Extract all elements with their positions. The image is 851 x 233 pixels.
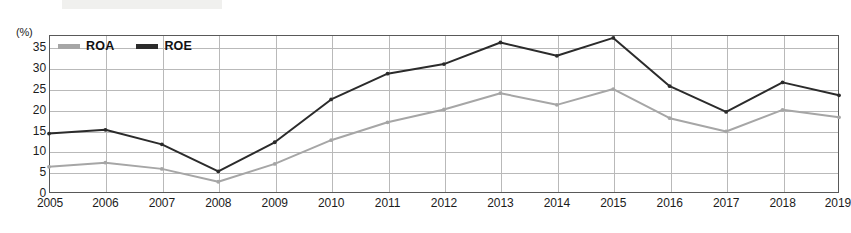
legend-label-roa: ROA (86, 39, 114, 53)
legend-item-roa: ROA (58, 39, 114, 53)
y-tick-label-5: 5 (2, 165, 46, 179)
data-point-roa-2006 (104, 161, 108, 165)
x-tick-label-2005: 2005 (37, 196, 63, 210)
data-point-roe-2017 (724, 110, 728, 114)
x-tick-label-2013: 2013 (487, 196, 513, 210)
data-point-roa-2010 (329, 138, 333, 142)
data-point-roa-2015 (611, 87, 615, 91)
x-tick-label-2007: 2007 (149, 196, 175, 210)
data-point-roe-2013 (499, 41, 503, 45)
legend-item-roe: ROE (136, 39, 192, 53)
data-point-roa-2007 (160, 167, 164, 171)
data-point-roe-2008 (216, 169, 220, 173)
x-tick-label-2014: 2014 (544, 196, 570, 210)
data-point-roe-2018 (781, 81, 785, 85)
data-point-roe-2010 (329, 98, 333, 102)
series-line-roe (49, 38, 839, 171)
data-point-roa-2014 (555, 103, 559, 107)
data-point-roe-2009 (273, 140, 277, 144)
data-point-roa-2005 (47, 165, 51, 169)
x-tick-label-2008: 2008 (205, 196, 231, 210)
x-tick-label-2016: 2016 (657, 196, 683, 210)
x-tick-label-2011: 2011 (375, 196, 400, 210)
data-point-roa-2017 (724, 130, 728, 134)
x-tick-label-2019: 2019 (825, 196, 851, 210)
series-line-roa (49, 89, 839, 182)
y-tick-label-20: 20 (2, 103, 46, 117)
data-point-roe-2015 (611, 36, 615, 40)
data-point-roa-2018 (781, 108, 785, 112)
data-point-roa-2019 (837, 115, 841, 119)
x-tick-label-2010: 2010 (318, 196, 344, 210)
y-tick-label-25: 25 (2, 82, 46, 96)
y-tick-label-15: 15 (2, 124, 46, 138)
data-point-roa-2012 (442, 108, 446, 112)
legend-swatch-roe (136, 44, 158, 49)
data-point-roe-2019 (837, 93, 841, 97)
data-point-roe-2011 (386, 72, 390, 76)
x-tick-label-2015: 2015 (600, 196, 626, 210)
data-point-roe-2005 (47, 132, 51, 136)
data-point-roe-2012 (442, 62, 446, 66)
data-point-roe-2006 (104, 128, 108, 132)
series-overlay (49, 35, 839, 193)
x-tick-label-2017: 2017 (713, 196, 739, 210)
y-tick-label-10: 10 (2, 144, 46, 158)
legend-label-roe: ROE (164, 39, 192, 53)
x-tick-label-2018: 2018 (769, 196, 795, 210)
data-point-roe-2007 (160, 142, 164, 146)
chart-legend: ROA ROE (58, 38, 192, 54)
y-tick-label-35: 35 (2, 40, 46, 54)
y-axis-tick-labels: 05101520253035 (0, 35, 46, 193)
legend-swatch-roa (58, 44, 80, 49)
data-point-roa-2011 (386, 120, 390, 124)
y-tick-label-30: 30 (2, 61, 46, 75)
data-point-roe-2016 (668, 84, 672, 88)
x-tick-label-2006: 2006 (92, 196, 118, 210)
data-point-roe-2014 (555, 54, 559, 58)
data-point-roa-2008 (216, 180, 220, 184)
data-point-roa-2016 (668, 116, 672, 120)
data-point-roa-2013 (499, 91, 503, 95)
x-axis-tick-labels: 2005200620072008200920102011201220132014… (49, 196, 839, 216)
x-tick-label-2012: 2012 (431, 196, 457, 210)
x-tick-label-2009: 2009 (262, 196, 288, 210)
data-point-roa-2009 (273, 162, 277, 166)
